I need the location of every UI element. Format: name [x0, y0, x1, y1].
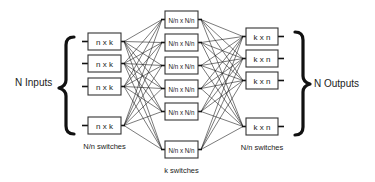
input-switch-3: n x k: [88, 78, 121, 95]
output-switch-1: k x n: [246, 28, 278, 45]
output-switch-3: k x n: [246, 72, 278, 89]
switch-label: n x k: [96, 83, 114, 92]
output-switch-4: k x n: [246, 118, 278, 135]
output-stage-caption: N/n switches: [241, 143, 284, 152]
switch-label: N/n x N/n: [168, 63, 195, 70]
outputs-label: N Outputs: [314, 78, 359, 89]
output-stage-switches: k x nk x nk x nk x n: [246, 28, 278, 135]
middle-switch-1: N/n x N/n: [165, 11, 198, 28]
middle-switch-6: N/n x N/n: [165, 141, 198, 158]
switch-label: N/n x N/n: [168, 147, 195, 154]
inputs-label: N Inputs: [15, 77, 52, 88]
middle-switch-3: N/n x N/n: [165, 57, 198, 74]
switch-label: n x k: [96, 60, 114, 69]
input-stage-caption: N/n switches: [83, 142, 126, 151]
switch-label: k x n: [254, 55, 271, 64]
middle-stage-switches: N/n x N/nN/n x N/nN/n x N/nN/n x N/nN/n …: [165, 11, 198, 158]
middle-switch-5: N/n x N/n: [165, 103, 198, 120]
switch-label: N/n x N/n: [168, 17, 195, 24]
middle-switch-2: N/n x N/n: [165, 34, 198, 51]
middle-switch-4: N/n x N/n: [165, 80, 198, 97]
input-stage-switches: n x kn x kn x kn x k: [88, 33, 121, 134]
switch-label: k x n: [254, 123, 271, 132]
outputs-brace-icon: [295, 32, 310, 135]
switch-label: N/n x N/n: [168, 86, 195, 93]
switch-label: N/n x N/n: [168, 109, 195, 116]
switch-label: n x k: [96, 122, 114, 131]
output-switch-2: k x n: [246, 50, 278, 67]
input-switch-4: n x k: [88, 117, 121, 134]
switch-label: N/n x N/n: [168, 40, 195, 47]
input-switch-2: n x k: [88, 55, 121, 72]
input-switch-1: n x k: [88, 33, 121, 50]
clos-network-diagram: n x kn x kn x kn x k N/n x N/nN/n x N/nN…: [0, 0, 375, 182]
switch-label: k x n: [254, 33, 271, 42]
inputs-brace-icon: [59, 37, 74, 134]
switch-label: k x n: [254, 77, 271, 86]
switch-label: n x k: [96, 38, 114, 47]
middle-stage-caption: k switches: [164, 166, 199, 175]
